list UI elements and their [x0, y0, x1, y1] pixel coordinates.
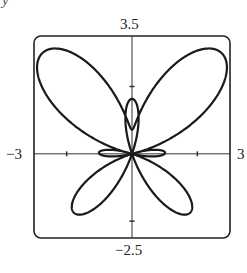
polar-plot — [0, 0, 247, 273]
y-min-label: −2.5 — [115, 243, 142, 258]
y-max-label: 3.5 — [120, 17, 139, 32]
x-max-label: 3 — [237, 147, 245, 162]
x-min-label: −3 — [6, 147, 22, 162]
